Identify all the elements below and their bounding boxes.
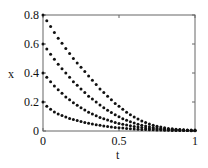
data-point (42, 101, 45, 104)
data-point (99, 124, 102, 127)
data-point (80, 66, 83, 69)
data-point (91, 113, 94, 116)
data-point (121, 117, 124, 120)
data-point (106, 109, 109, 112)
data-point (76, 104, 79, 107)
data-point (64, 72, 67, 75)
data-point (118, 115, 121, 118)
data-point (87, 111, 90, 114)
data-point (49, 25, 52, 28)
data-point (95, 101, 98, 104)
data-point (42, 43, 45, 46)
data-point (106, 125, 109, 128)
data-point (121, 127, 124, 130)
data-point (99, 88, 102, 91)
data-point (140, 120, 143, 123)
y-tick-label: 0.2 (9, 96, 39, 108)
data-point (87, 95, 90, 98)
data-point (49, 53, 52, 56)
data-point (156, 129, 159, 132)
data-point (110, 98, 113, 101)
data-point (114, 102, 117, 105)
data-point (133, 122, 136, 125)
data-point (68, 76, 71, 79)
data-point (125, 127, 128, 130)
data-point (129, 124, 132, 127)
data-point (61, 42, 64, 45)
x-tick-label: 0.5 (104, 135, 134, 147)
data-point (45, 19, 48, 22)
data-point (61, 67, 64, 70)
data-point (137, 128, 140, 131)
data-point (110, 111, 113, 114)
data-point (57, 37, 60, 40)
y-tick-label: 0.8 (9, 9, 39, 21)
data-point (83, 91, 86, 94)
data-point (45, 105, 48, 108)
data-point (49, 80, 52, 83)
data-point (72, 118, 75, 121)
data-point (42, 72, 45, 75)
data-point (80, 88, 83, 91)
data-point (133, 128, 136, 131)
x-tick-label: 0 (28, 135, 58, 147)
data-point (121, 108, 124, 111)
data-point (102, 106, 105, 109)
y-tick-label: 0.6 (9, 38, 39, 50)
data-point (102, 117, 105, 120)
data-point (87, 74, 90, 77)
data-point (118, 105, 121, 108)
data-point (80, 120, 83, 123)
data-point (194, 129, 197, 132)
y-axis-label: x (8, 67, 14, 82)
data-point (72, 101, 75, 104)
data-point (68, 52, 71, 55)
data-point (53, 110, 56, 113)
data-point (83, 121, 86, 124)
data-point (45, 48, 48, 51)
data-point (121, 123, 124, 126)
data-points (42, 14, 197, 133)
data-point (129, 113, 132, 116)
data-point (140, 128, 143, 131)
data-point (76, 84, 79, 87)
data-point (53, 85, 56, 88)
data-point (144, 121, 147, 124)
data-point (76, 119, 79, 122)
data-point (178, 129, 181, 132)
data-point (91, 98, 94, 101)
data-point (186, 129, 189, 132)
data-point (57, 112, 60, 115)
data-point (72, 80, 75, 83)
data-point (190, 129, 193, 132)
data-point (110, 125, 113, 128)
data-point (129, 127, 132, 130)
data-point (129, 120, 132, 123)
data-point (137, 123, 140, 126)
data-point (95, 114, 98, 117)
data-point (114, 121, 117, 124)
data-point (137, 118, 140, 121)
data-point (42, 14, 45, 17)
data-point (152, 128, 155, 131)
data-point (125, 119, 128, 122)
data-point (144, 128, 147, 131)
data-point (61, 114, 64, 117)
data-point (53, 31, 56, 34)
data-point (182, 129, 185, 132)
data-point (91, 79, 94, 82)
data-point (118, 122, 121, 125)
data-point (159, 129, 162, 132)
data-point (114, 126, 117, 129)
data-point (133, 116, 136, 119)
data-point (106, 119, 109, 122)
data-point (72, 57, 75, 60)
data-point (102, 124, 105, 127)
data-point (57, 63, 60, 66)
data-point (106, 95, 109, 98)
data-point (99, 116, 102, 119)
x-tick-label: 1 (180, 135, 208, 147)
data-point (53, 58, 56, 61)
data-point (171, 129, 174, 132)
data-point (114, 113, 117, 116)
